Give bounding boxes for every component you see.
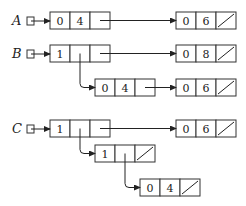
list-node-C2: 06 [176,120,236,137]
list-node-C4: 04 [140,179,200,196]
cell-value: 0 [102,82,109,95]
cell-value: 0 [147,182,154,195]
variable-A: A [11,13,34,28]
variable-label: A [11,13,21,28]
cell-value: 4 [122,82,129,95]
linked-list-diagram: 04061080406106104ABC [0,0,246,206]
cell-value: 6 [203,123,210,136]
variable-label: B [11,46,22,61]
cell-value: 0 [183,15,190,28]
list-node-B2: 08 [176,45,236,62]
cell-value: 4 [167,182,174,195]
variable-label: C [12,121,22,136]
cell-value: 1 [57,48,64,61]
cell-value: 8 [203,48,210,61]
list-node-A2: 06 [176,12,236,29]
variable-C: C [12,121,34,136]
cell-value: 0 [183,48,190,61]
variable-B: B [11,46,34,61]
cell-value: 1 [57,123,64,136]
cell-value: 1 [102,148,109,161]
cell-value: 0 [57,15,64,28]
list-node-B4: 06 [176,79,236,96]
cell-value: 6 [203,15,210,28]
cell-value: 0 [183,82,190,95]
diagram-drawing: 04061080406106104ABC [11,12,236,196]
cell-value: 4 [77,15,84,28]
cell-value: 6 [203,82,210,95]
cell-value: 0 [183,123,190,136]
